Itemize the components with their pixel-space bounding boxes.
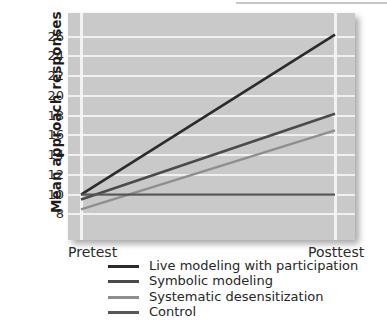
series-lines [68, 13, 355, 240]
legend-label: Symbolic modeling [149, 273, 273, 289]
legend-swatch [108, 296, 139, 299]
plot-area [68, 13, 355, 240]
legend: Live modeling with participationSymbolic… [108, 260, 378, 321]
legend-label: Live modeling with participation [149, 258, 358, 274]
legend-item: Control [108, 306, 378, 321]
series-line [81, 114, 335, 200]
legend-label: Systematic desensitization [149, 289, 323, 305]
y-axis-title-wrap: Mean approach responses [28, 0, 48, 230]
legend-label: Control [149, 304, 196, 320]
top-divider [236, 2, 387, 4]
x-axis-tick-pretest: Pretest [68, 244, 117, 260]
legend-swatch [108, 280, 139, 283]
legend-swatch [108, 311, 139, 314]
figure: 8101214161820222426 Mean approach respon… [0, 0, 387, 336]
legend-swatch [108, 265, 139, 268]
y-axis-title: Mean approach responses [48, 13, 64, 213]
